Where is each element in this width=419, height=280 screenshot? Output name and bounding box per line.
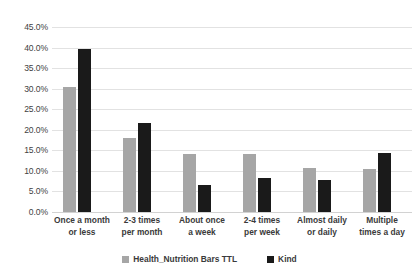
bar [183, 154, 196, 212]
bar [363, 169, 376, 212]
bar [78, 49, 91, 212]
bar [303, 168, 316, 212]
y-axis-tick-label: 45.0% [24, 23, 48, 32]
x-axis-category-line: or daily [292, 227, 352, 239]
bar [318, 180, 331, 212]
x-axis-category-line: About once [172, 215, 232, 227]
x-axis-category-line: per month [112, 227, 172, 239]
x-axis-category-line: times a day [352, 227, 412, 239]
y-axis-tick-label: 10.0% [24, 167, 48, 176]
y-axis-tick-label: 20.0% [24, 125, 48, 134]
y-axis-tick-label: 5.0% [29, 187, 48, 196]
x-axis-category-line: 2-3 times [112, 215, 172, 227]
y-axis-tick-label: 30.0% [24, 84, 48, 93]
x-axis-category-line: 2-4 times [232, 215, 292, 227]
bar-group [52, 27, 112, 212]
bar-group [232, 27, 292, 212]
y-axis-tick-label: 40.0% [24, 43, 48, 52]
x-axis: Once a monthor less2-3 timesper monthAbo… [52, 215, 412, 247]
bar [138, 123, 151, 212]
y-axis-tick-label: 35.0% [24, 64, 48, 73]
bars-layer [52, 27, 412, 212]
x-axis-category-label: 2-4 timesper week [232, 215, 292, 238]
bar [378, 153, 391, 212]
legend-swatch-icon [122, 256, 129, 263]
chart-legend: Health_Nutrition Bars TTLKind [0, 255, 419, 263]
bar [198, 185, 211, 212]
bar-group [352, 27, 412, 212]
y-axis: 0.0%5.0%10.0%15.0%20.0%25.0%30.0%35.0%40… [0, 27, 48, 212]
x-axis-category-line: Once a month [52, 215, 112, 227]
x-axis-category-label: 2-3 timesper month [112, 215, 172, 238]
legend-item[interactable]: Health_Nutrition Bars TTL [122, 255, 237, 263]
x-axis-category-label: About oncea week [172, 215, 232, 238]
x-axis-category-line: per week [232, 227, 292, 239]
y-axis-tick-label: 0.0% [29, 208, 48, 217]
bar-group [292, 27, 352, 212]
bar [258, 178, 271, 212]
bar-chart: 0.0%5.0%10.0%15.0%20.0%25.0%30.0%35.0%40… [0, 0, 419, 280]
x-axis-category-line: Almost daily [292, 215, 352, 227]
x-axis-category-label: Multipletimes a day [352, 215, 412, 238]
x-axis-category-label: Almost dailyor daily [292, 215, 352, 238]
x-axis-category-line: a week [172, 227, 232, 239]
legend-item-label: Health_Nutrition Bars TTL [133, 255, 237, 263]
x-axis-category-label: Once a monthor less [52, 215, 112, 238]
bar [123, 138, 136, 212]
y-axis-tick-label: 15.0% [24, 146, 48, 155]
x-axis-category-line: or less [52, 227, 112, 239]
legend-item[interactable]: Kind [267, 255, 297, 263]
bar [63, 87, 76, 212]
x-axis-category-line: Multiple [352, 215, 412, 227]
legend-item-label: Kind [278, 255, 297, 263]
bar-group [172, 27, 232, 212]
bar-group [112, 27, 172, 212]
y-axis-tick-label: 25.0% [24, 105, 48, 114]
legend-swatch-icon [267, 256, 274, 263]
gridline-0.0 [52, 212, 412, 213]
bar [243, 154, 256, 212]
